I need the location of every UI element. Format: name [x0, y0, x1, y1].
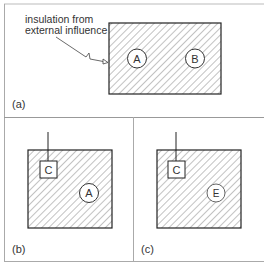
panel-b-label: (b) — [12, 243, 25, 255]
circle-a-b-label: A — [85, 187, 93, 199]
circle-b-label: B — [191, 53, 198, 65]
box-c-c-label: C — [173, 164, 181, 176]
panel-b: C A (b) — [12, 132, 112, 255]
leader-arrow — [56, 37, 106, 62]
box-c-b-label: C — [45, 164, 53, 176]
panel-a: A B insulation from external influence (… — [12, 13, 221, 110]
diagram-canvas: A B insulation from external influence (… — [0, 0, 264, 266]
circle-e-c-label: E — [213, 188, 220, 199]
circle-a-label: A — [133, 53, 141, 65]
panel-a-label: (a) — [12, 98, 25, 110]
panel-c-label: (c) — [141, 243, 154, 255]
arrowhead-icon — [103, 59, 108, 64]
panel-c: C E (c) — [141, 132, 241, 255]
annotation-line2: external influence — [25, 24, 107, 36]
